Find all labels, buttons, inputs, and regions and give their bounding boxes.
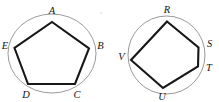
inscribed-pentagons-diagram: A B C D E R S T U V xyxy=(0,0,219,102)
left-figure-group: A B C D E xyxy=(1,5,105,100)
geometry-figure-panel: A B C D E R S T U V xyxy=(0,0,219,102)
vertex-label-c: C xyxy=(73,89,81,100)
vertex-label-b: B xyxy=(97,40,104,51)
vertex-label-u: U xyxy=(158,91,167,102)
vertex-label-v: V xyxy=(118,51,126,62)
pentagon-abcde xyxy=(15,22,90,84)
pentagon-rstuv xyxy=(131,22,199,89)
vertex-label-e: E xyxy=(1,40,9,51)
vertex-label-t: T xyxy=(206,62,213,73)
right-figure-group: R S T U V xyxy=(118,4,213,102)
vertex-label-s: S xyxy=(207,38,213,49)
vertex-label-r: R xyxy=(163,4,171,15)
circumscribed-circle-left xyxy=(8,14,96,93)
circumscribed-circle-right xyxy=(128,16,205,94)
vertex-label-d: D xyxy=(21,89,30,100)
vertex-label-a: A xyxy=(48,5,56,16)
